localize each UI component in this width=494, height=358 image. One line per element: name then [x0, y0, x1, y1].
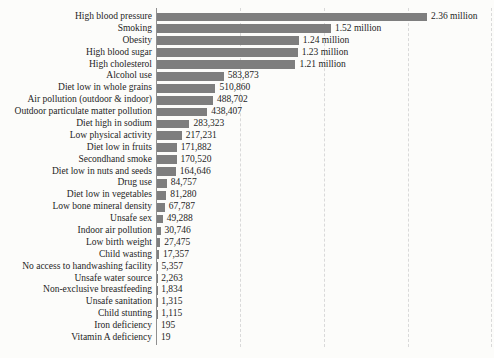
chart-row: Non-exclusive breastfeeding1,834	[0, 284, 494, 296]
chart-row: Indoor air pollution30,746	[0, 225, 494, 237]
chart-row: Diet low in nuts and seeds164,646	[0, 166, 494, 178]
chart-row: Low birth weight27,475	[0, 237, 494, 249]
bar-area: 2.36 million	[157, 11, 494, 23]
category-label: No access to handwashing facility	[0, 261, 157, 273]
bar-area: 1,834	[157, 284, 494, 296]
chart-row: High blood pressure2.36 million	[0, 11, 494, 23]
category-label: Diet low in nuts and seeds	[0, 166, 157, 178]
bar	[157, 167, 176, 176]
bar	[157, 227, 161, 236]
value-label: 217,231	[186, 130, 217, 142]
bar-area: 17,357	[157, 249, 494, 261]
bar-area: 488,702	[157, 94, 494, 106]
category-label: Diet low in vegetables	[0, 189, 157, 201]
value-label: 1,834	[161, 284, 182, 296]
category-label: Unsafe sanitation	[0, 296, 157, 308]
value-label: 27,475	[164, 237, 190, 249]
bar-area: 583,873	[157, 70, 494, 82]
category-label: Air pollution (outdoor & indoor)	[0, 94, 157, 106]
category-label: Diet low in whole grains	[0, 82, 157, 94]
category-label: Child stunting	[0, 308, 157, 320]
bar	[157, 238, 160, 247]
value-label: 583,873	[228, 70, 259, 82]
value-label: 170,520	[181, 154, 212, 166]
bar-area: 170,520	[157, 154, 494, 166]
bar-area: 217,231	[157, 130, 494, 142]
bar	[157, 96, 213, 105]
chart-row: Low physical activity217,231	[0, 130, 494, 142]
value-label: 17,357	[163, 249, 189, 261]
bar	[157, 262, 158, 271]
bar-area: 30,746	[157, 225, 494, 237]
chart-row: Child wasting17,357	[0, 249, 494, 261]
bar-area: 195	[157, 320, 494, 332]
bar-area: 171,882	[157, 142, 494, 154]
bar-chart: High blood pressure2.36 millionSmoking1.…	[0, 0, 494, 358]
bar	[157, 84, 215, 93]
chart-row: Unsafe sanitation1,315	[0, 296, 494, 308]
bar	[157, 143, 177, 152]
chart-row: Obesity1.24 million	[0, 35, 494, 47]
category-label: Child wasting	[0, 249, 157, 261]
value-label: 5,357	[162, 261, 183, 273]
y-axis-line	[156, 8, 157, 345]
bar-area: 510,860	[157, 82, 494, 94]
category-label: Low physical activity	[0, 130, 157, 142]
bar-area: 1.52 million	[157, 23, 494, 35]
bar-area: 1.24 million	[157, 35, 494, 47]
value-label: 2.36 million	[431, 11, 477, 23]
bar	[157, 36, 299, 45]
value-label: 81,280	[170, 189, 196, 201]
bar	[157, 24, 331, 33]
category-label: Vitamin A deficiency	[0, 332, 157, 344]
bar	[157, 215, 163, 224]
category-label: Secondhand smoke	[0, 154, 157, 166]
bar-area: 1.23 million	[157, 47, 494, 59]
value-label: 19	[161, 332, 171, 344]
chart-row: Outdoor particulate matter pollution438,…	[0, 106, 494, 118]
bar	[157, 48, 298, 57]
value-label: 1.23 million	[302, 47, 348, 59]
chart-row: Unsafe sex49,288	[0, 213, 494, 225]
bar	[157, 60, 295, 69]
chart-row: Low bone mineral density67,787	[0, 201, 494, 213]
bar-area: 2,263	[157, 273, 494, 285]
bar	[157, 155, 177, 164]
bar-area: 1,115	[157, 308, 494, 320]
category-label: Iron deficiency	[0, 320, 157, 332]
chart-row: Unsafe water source2,263	[0, 273, 494, 285]
category-label: Diet low in fruits	[0, 142, 157, 154]
chart-row: Alcohol use583,873	[0, 70, 494, 82]
chart-row: Drug use84,757	[0, 177, 494, 189]
value-label: 49,288	[167, 213, 193, 225]
bar	[157, 203, 165, 212]
chart-row: Child stunting1,115	[0, 308, 494, 320]
bar	[157, 179, 167, 188]
bar-area: 67,787	[157, 201, 494, 213]
bar	[157, 13, 427, 22]
bar-area: 19	[157, 332, 494, 344]
chart-row: High blood sugar1.23 million	[0, 47, 494, 59]
chart-row: No access to handwashing facility5,357	[0, 261, 494, 273]
category-label: Diet high in sodium	[0, 118, 157, 130]
category-label: Smoking	[0, 23, 157, 35]
chart-row: Diet low in vegetables81,280	[0, 189, 494, 201]
value-label: 84,757	[171, 177, 197, 189]
category-label: Drug use	[0, 177, 157, 189]
bar-area: 1.21 million	[157, 59, 494, 71]
category-label: Low birth weight	[0, 237, 157, 249]
bar	[157, 108, 207, 117]
category-label: Non-exclusive breastfeeding	[0, 284, 157, 296]
category-label: Alcohol use	[0, 70, 157, 82]
bar-area: 84,757	[157, 177, 494, 189]
category-label: Low bone mineral density	[0, 201, 157, 213]
chart-row: Air pollution (outdoor & indoor)488,702	[0, 94, 494, 106]
chart-row: Iron deficiency195	[0, 320, 494, 332]
value-label: 283,323	[193, 118, 224, 130]
value-label: 1.52 million	[335, 23, 381, 35]
value-label: 438,407	[211, 106, 242, 118]
category-label: High blood pressure	[0, 11, 157, 23]
category-label: Obesity	[0, 35, 157, 47]
bar-area: 49,288	[157, 213, 494, 225]
category-label: High cholesterol	[0, 59, 157, 71]
